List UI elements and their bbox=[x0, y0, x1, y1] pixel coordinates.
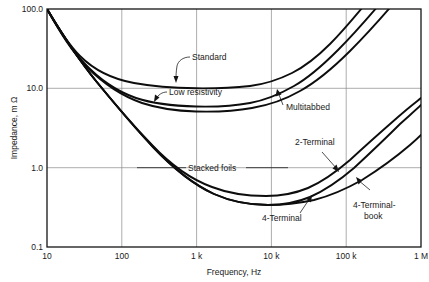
annotation-4-terminal: 4-Terminal bbox=[262, 213, 302, 223]
annotation-multitabbed: Multitabbed bbox=[286, 102, 330, 112]
x-tick-label-100k: 100 k bbox=[336, 251, 358, 261]
y-axis-title: Impedance, m Ω bbox=[9, 97, 19, 160]
y-tick-label-10: 10.0 bbox=[26, 83, 43, 93]
annotation-standard: Standard bbox=[192, 52, 227, 62]
x-tick-label-1M: 1 M bbox=[414, 251, 428, 261]
annotation-stacked-foils: Stacked foils bbox=[188, 163, 236, 173]
annotation-2-terminal: 2-Terminal bbox=[295, 137, 335, 147]
annotation-4-terminal-book-line2: book bbox=[364, 211, 383, 221]
annotation-low-resistivity: Low resistivity bbox=[169, 87, 223, 97]
x-tick-label-100: 100 bbox=[115, 251, 129, 261]
chart-page: Standard Low resistivity Multitabbed Sta… bbox=[0, 0, 429, 282]
y-tick-label-1: 1.0 bbox=[31, 163, 43, 173]
x-tick-label-1k: 1 k bbox=[191, 251, 203, 261]
x-tick-label-10: 10 bbox=[42, 251, 52, 261]
annotation-4-terminal-book-line1: 4-Terminal- bbox=[353, 200, 396, 210]
x-axis-title: Frequency, Hz bbox=[207, 267, 262, 277]
y-tick-label-100: 100.0 bbox=[22, 4, 44, 14]
x-tick-label-10k: 10 k bbox=[263, 251, 280, 261]
impedance-vs-frequency-chart: Standard Low resistivity Multitabbed Sta… bbox=[0, 0, 429, 282]
